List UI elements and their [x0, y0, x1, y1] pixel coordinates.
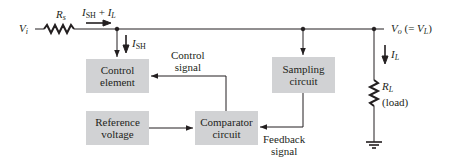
reference-voltage-block: Referencevoltage — [86, 111, 149, 145]
comparator-circuit-block: Comparatorcircuit — [195, 111, 258, 145]
input-voltage-label: Vi — [19, 22, 28, 38]
control-element-block: Controlelement — [86, 59, 149, 93]
control-signal-line — [151, 76, 226, 111]
shunt-current-label: ISH — [132, 37, 146, 53]
control-signal-label: Controlsignal — [171, 49, 205, 73]
feedback-signal-line — [260, 93, 303, 127]
junction-dot — [115, 27, 119, 31]
output-voltage-label: Vo (= VL) — [391, 22, 432, 38]
load-resistor-icon — [370, 80, 378, 106]
load-current-arrow-icon — [382, 56, 388, 64]
load-current-label: IL — [391, 48, 399, 64]
sampling-circuit-block: Samplingcircuit — [272, 57, 335, 93]
junction-dot — [372, 27, 376, 31]
shunt-current-arrow-icon — [123, 45, 129, 53]
load-resistor-label: RL (load) — [382, 80, 408, 108]
series-resistor-label: Rs — [56, 8, 66, 24]
total-current-label: ISH + IL — [82, 6, 116, 22]
ground-icon — [366, 142, 382, 148]
feedback-signal-label: Feedbacksignal — [263, 133, 305, 157]
junction-dot — [301, 27, 305, 31]
series-resistor-icon — [44, 25, 74, 33]
